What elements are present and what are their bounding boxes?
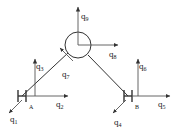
dof-label-q3: q3 <box>36 62 44 71</box>
dof-arrow-q1 <box>9 100 22 113</box>
dof-label-q6: q6 <box>139 62 147 71</box>
dof-label-q5: q5 <box>158 100 166 109</box>
node-label-A: A <box>29 98 33 108</box>
dof-label-q8: q8 <box>109 50 117 59</box>
dof-label-q2: q2 <box>56 100 64 109</box>
dof-label-q1: q1 <box>10 115 18 124</box>
dof-label-q4: q4 <box>114 118 122 127</box>
dof-label-q7: q7 <box>62 70 70 79</box>
dof-label-q9: q9 <box>81 12 89 21</box>
dof-arrow-q4 <box>113 100 126 113</box>
node-label-B: B <box>135 98 139 108</box>
member-joint-B <box>88 55 128 96</box>
figure-canvas: q1 q2 q3 q4 q5 q6 q7 q8 q9 A B <box>0 0 175 134</box>
